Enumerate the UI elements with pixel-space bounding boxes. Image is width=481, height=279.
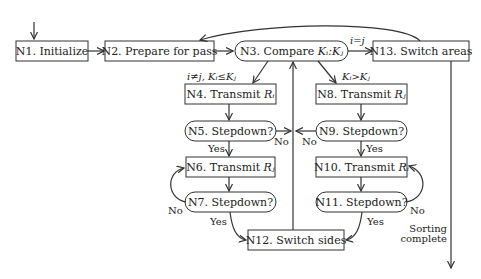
arrow-n3-n8 — [318, 61, 336, 83]
node-n9-label: N9. Stepdown? — [319, 125, 404, 138]
node-n8-label: N8. Transmit Rⱼ — [317, 88, 406, 101]
edge-label-n9-no: No — [302, 136, 317, 147]
edge-label-n7-yes: Yes — [209, 216, 227, 227]
node-n12-label: N12. Switch sides — [246, 234, 347, 247]
node-n5: N5. Stepdown? — [185, 121, 276, 141]
arrow-n13-n2 — [200, 26, 420, 41]
node-n12: N12. Switch sides — [246, 230, 347, 250]
edge-label-i-neq-j: i≠j, Kᵢ≤Kⱼ — [187, 71, 236, 82]
edge-label-n5-yes: Yes — [207, 143, 225, 154]
arrow-n3-n4 — [253, 61, 268, 83]
node-n4: N4. Transmit Rᵢ — [185, 84, 276, 104]
node-n11: N11. Stepdown? — [315, 192, 407, 212]
node-n5-label: N5. Stepdown? — [188, 125, 273, 138]
node-n1-label: N1. Initialize — [16, 45, 88, 58]
edge-label-n9-yes: Yes — [365, 143, 383, 154]
node-n3-label: N3. Compare Kᵢ:Kⱼ — [240, 45, 343, 58]
node-n4-label: N4. Transmit Rᵢ — [187, 88, 275, 101]
edge-label-n5-no: No — [274, 136, 289, 147]
node-n1: N1. Initialize — [16, 41, 88, 61]
node-n6: N6. Transmit Rⱼ — [186, 157, 275, 177]
node-n10-label: N10. Transmit Rᵢ — [314, 161, 409, 174]
node-n6-label: N6. Transmit Rⱼ — [186, 161, 275, 174]
node-n10: N10. Transmit Rᵢ — [314, 157, 409, 177]
edge-label-n7-no: No — [168, 205, 183, 216]
node-n2-label: N2. Prepare for pass — [102, 45, 218, 58]
edge-label-n11-yes: Yes — [366, 216, 384, 227]
edge-label-n11-no: No — [410, 205, 425, 216]
node-n8: N8. Transmit Rⱼ — [316, 84, 407, 104]
flowchart: N1. Initialize N2. Prepare for pass N3. … — [0, 0, 481, 279]
arrow-n7-yes — [230, 212, 246, 240]
edge-label-ki-gt-kj: Kᵢ>Kⱼ — [341, 71, 370, 82]
node-n13: N13. Switch areas — [370, 41, 473, 61]
edge-label-complete: complete — [400, 233, 447, 244]
arrow-n11-yes — [346, 212, 362, 240]
node-n9: N9. Stepdown? — [316, 121, 407, 141]
node-n2: N2. Prepare for pass — [102, 41, 218, 61]
node-n3: N3. Compare Kᵢ:Kⱼ — [235, 41, 348, 61]
node-n13-label: N13. Switch areas — [370, 45, 473, 58]
edge-label-i-eq-j: i=j — [350, 35, 365, 46]
arrow-n7-no-loop — [171, 168, 186, 202]
node-n11-label: N11. Stepdown? — [315, 196, 407, 209]
node-n7: N7. Stepdown? — [185, 192, 276, 212]
node-n7-label: N7. Stepdown? — [188, 196, 273, 209]
